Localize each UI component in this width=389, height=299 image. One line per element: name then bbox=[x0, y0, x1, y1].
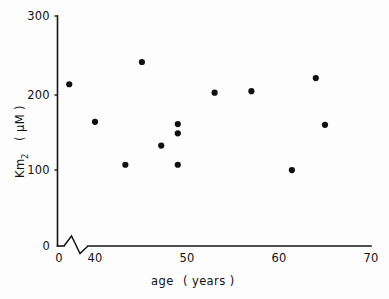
x-axis-break-zigzag bbox=[64, 236, 88, 254]
x-axis-title: age ( years ) bbox=[151, 274, 235, 288]
data-point bbox=[175, 130, 181, 136]
x-tick-label-50: 50 bbox=[179, 251, 194, 265]
y-axis-title-subscript: 2 bbox=[20, 154, 30, 159]
y-tick-label-200: 200 bbox=[27, 88, 50, 102]
data-point bbox=[313, 75, 319, 81]
data-point bbox=[122, 162, 128, 168]
data-points-layer bbox=[66, 59, 328, 173]
data-point bbox=[322, 122, 328, 128]
x-axis-title-main: age bbox=[151, 274, 174, 288]
y-tick-label-300: 300 bbox=[27, 9, 50, 23]
y-axis-title-units: ( µM ) bbox=[13, 105, 27, 141]
y-tick-label-0: 0 bbox=[42, 239, 50, 253]
chart-canvas: 300 200 100 0 0 40 50 60 70 age ( years … bbox=[0, 0, 389, 299]
x-tick-label-40: 40 bbox=[87, 251, 102, 265]
data-point bbox=[248, 88, 254, 94]
x-axis-title-units: ( years ) bbox=[183, 274, 235, 288]
data-point bbox=[175, 121, 181, 127]
data-point bbox=[66, 81, 72, 87]
y-axis-title-main: Km bbox=[13, 158, 27, 178]
y-tick-label-100: 100 bbox=[27, 163, 50, 177]
x-tick-label-60: 60 bbox=[271, 251, 286, 265]
data-point bbox=[92, 119, 98, 125]
data-point bbox=[175, 162, 181, 168]
x-tick-label-70: 70 bbox=[363, 251, 378, 265]
data-point bbox=[139, 59, 145, 65]
data-point bbox=[289, 167, 295, 173]
scatter-plot-figure: 300 200 100 0 0 40 50 60 70 age ( years … bbox=[0, 0, 389, 299]
x-tick-label-0: 0 bbox=[55, 251, 63, 265]
data-point bbox=[212, 90, 218, 96]
data-point bbox=[158, 142, 164, 148]
